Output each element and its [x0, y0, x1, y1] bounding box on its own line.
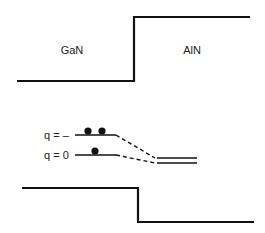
valence-band-edge — [22, 188, 254, 222]
level-label-neutral: q = 0 — [44, 149, 69, 161]
connector-dashed-neutral — [116, 155, 155, 163]
electron-dot — [84, 127, 91, 134]
level-label-charged: q = – — [44, 129, 70, 141]
electron-dot — [91, 147, 98, 154]
connector-dashed-charged — [116, 135, 155, 158]
band-diagram: GaN AlN q = – q = 0 — [0, 0, 265, 233]
electron-dot — [98, 127, 105, 134]
conduction-band-edge — [17, 17, 250, 81]
region-label-aln: AlN — [183, 44, 201, 56]
region-label-gan: GaN — [61, 44, 84, 56]
